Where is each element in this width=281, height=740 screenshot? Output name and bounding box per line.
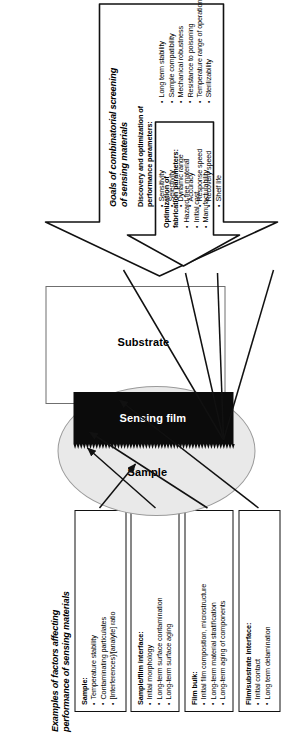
list-item: Sterilizability — [204, 7, 213, 103]
list-item: Manufacturability — [201, 124, 210, 228]
list-item: Long term stability — [157, 7, 166, 103]
figure-canvas: Examples of factors affecting performanc… — [28, 0, 266, 740]
list-item: Resistance to poisoning — [185, 7, 194, 103]
goal-box-fabrication: Optimization of fabrication parameters: … — [162, 124, 208, 228]
goal-box-title: Discovery and optimization of performanc… — [136, 7, 154, 207]
list-item: Mechanical robustness — [176, 7, 185, 103]
goal-box-list: Hazard-free material Initial cost Manufa… — [182, 124, 210, 228]
goal-box-title: Optimization of fabrication parameters: — [162, 124, 180, 228]
bottom-heading: Goals of combinatorial screening of sens… — [108, 7, 130, 207]
list-item: Temperature range of operation — [195, 7, 204, 103]
list-item: Shelf life — [213, 111, 222, 207]
list-item: Initial cost — [191, 124, 200, 228]
list-item: Hazard-free material — [182, 124, 191, 228]
list-item: Sample compatibility — [166, 7, 175, 103]
